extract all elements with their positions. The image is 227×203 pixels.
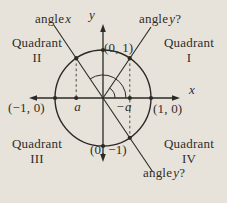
quadrant-ii-label: Quadrant II xyxy=(5,35,69,65)
point-neg1-0-label: (−1, 0) xyxy=(8,101,45,115)
angle-y-arc xyxy=(110,88,115,98)
tick-neg-a-label: −a xyxy=(114,100,134,114)
tick-a-label: a xyxy=(72,100,82,114)
y-axis-label: y xyxy=(88,8,95,22)
quadrant-iii-label: Quadrant III xyxy=(5,136,69,166)
point-neg1-0-dot xyxy=(53,96,57,100)
angle-y-bottom-label: angley? xyxy=(143,166,185,180)
y-axis-arrow-top-icon xyxy=(100,24,106,32)
circle-intersection-q2-dot xyxy=(74,56,78,60)
point-1-0-dot xyxy=(149,96,153,100)
x-axis-arrow-right-icon xyxy=(172,95,180,101)
quadrant-i-label: Quadrant I xyxy=(157,35,221,65)
angle-y-ray xyxy=(103,27,151,98)
angle-x-label: anglex xyxy=(35,12,71,26)
point-0-1-label: (0, 1) xyxy=(104,41,133,55)
circle-intersection-q4-dot xyxy=(128,136,132,140)
unit-circle-figure: anglex y angley? Quadrant II (0, 1) Quad… xyxy=(0,0,227,203)
quadrant-iv-label: Quadrant IV xyxy=(157,136,221,166)
x-axis-label: x xyxy=(188,83,195,97)
angle-y-top-label: angley? xyxy=(139,12,181,26)
circle-intersection-q1-dot xyxy=(128,56,132,60)
point-1-0-label: (1, 0) xyxy=(153,102,182,116)
point-0-neg1-label: (0, −1) xyxy=(90,143,127,157)
